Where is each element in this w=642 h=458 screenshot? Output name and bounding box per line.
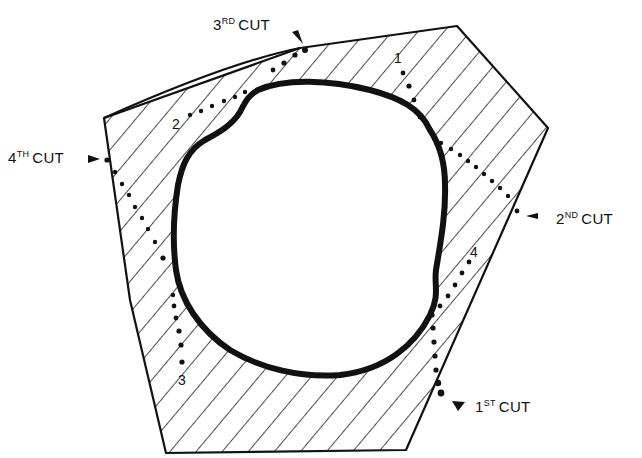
cut-number: 4 — [8, 149, 17, 166]
arrow-3rd-cut — [292, 30, 303, 44]
label-2nd-cut: 2NDCUT — [556, 210, 613, 227]
cutting-diagram — [0, 0, 642, 458]
cut-suffix: RD — [222, 16, 236, 26]
path-number-1: 1 — [394, 50, 402, 66]
cut-number: 3 — [213, 16, 222, 33]
cut-word: CUT — [499, 398, 531, 415]
cut-suffix: TH — [17, 149, 30, 159]
label-3rd-cut: 3RDCUT — [213, 16, 270, 33]
cut-suffix: ST — [484, 398, 496, 408]
path-number-4: 4 — [470, 244, 478, 260]
path-number-2: 2 — [172, 116, 180, 132]
cut-word: CUT — [32, 149, 64, 166]
cut-suffix: ND — [565, 210, 579, 220]
label-1st-cut: 1STCUT — [475, 398, 531, 415]
path-number-3: 3 — [178, 372, 186, 388]
arrow-4th-cut — [88, 155, 100, 163]
cut-word: CUT — [238, 16, 270, 33]
label-4th-cut: 4THCUT — [8, 149, 64, 166]
cut-word: CUT — [581, 210, 613, 227]
cut-number: 2 — [556, 210, 565, 227]
cut-number: 1 — [475, 398, 484, 415]
arrow-1st-cut — [452, 401, 465, 411]
arrow-2nd-cut — [526, 213, 538, 219]
